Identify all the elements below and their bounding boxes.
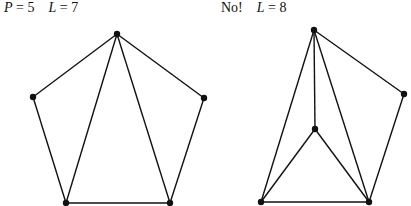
- edge: [261, 129, 315, 202]
- edge: [33, 97, 66, 203]
- pentagon-graph-left: [30, 31, 207, 206]
- edge: [314, 30, 369, 202]
- edge: [314, 30, 404, 94]
- edge: [117, 34, 204, 98]
- edge: [315, 129, 369, 202]
- point-node: [312, 126, 318, 132]
- edge: [170, 98, 204, 203]
- edge: [117, 34, 170, 203]
- edge: [66, 34, 117, 203]
- point-node: [63, 200, 69, 206]
- point-node: [258, 199, 264, 205]
- graph-diagrams: [0, 0, 411, 206]
- point-node: [167, 200, 173, 206]
- point-node: [114, 31, 120, 37]
- edge: [314, 30, 315, 129]
- edge: [369, 94, 404, 202]
- point-node: [201, 95, 207, 101]
- point-node: [311, 27, 317, 33]
- point-node: [30, 94, 36, 100]
- edge: [261, 30, 314, 202]
- point-node: [401, 91, 407, 97]
- graph-right: [258, 27, 407, 205]
- point-node: [366, 199, 372, 205]
- edge: [33, 34, 117, 97]
